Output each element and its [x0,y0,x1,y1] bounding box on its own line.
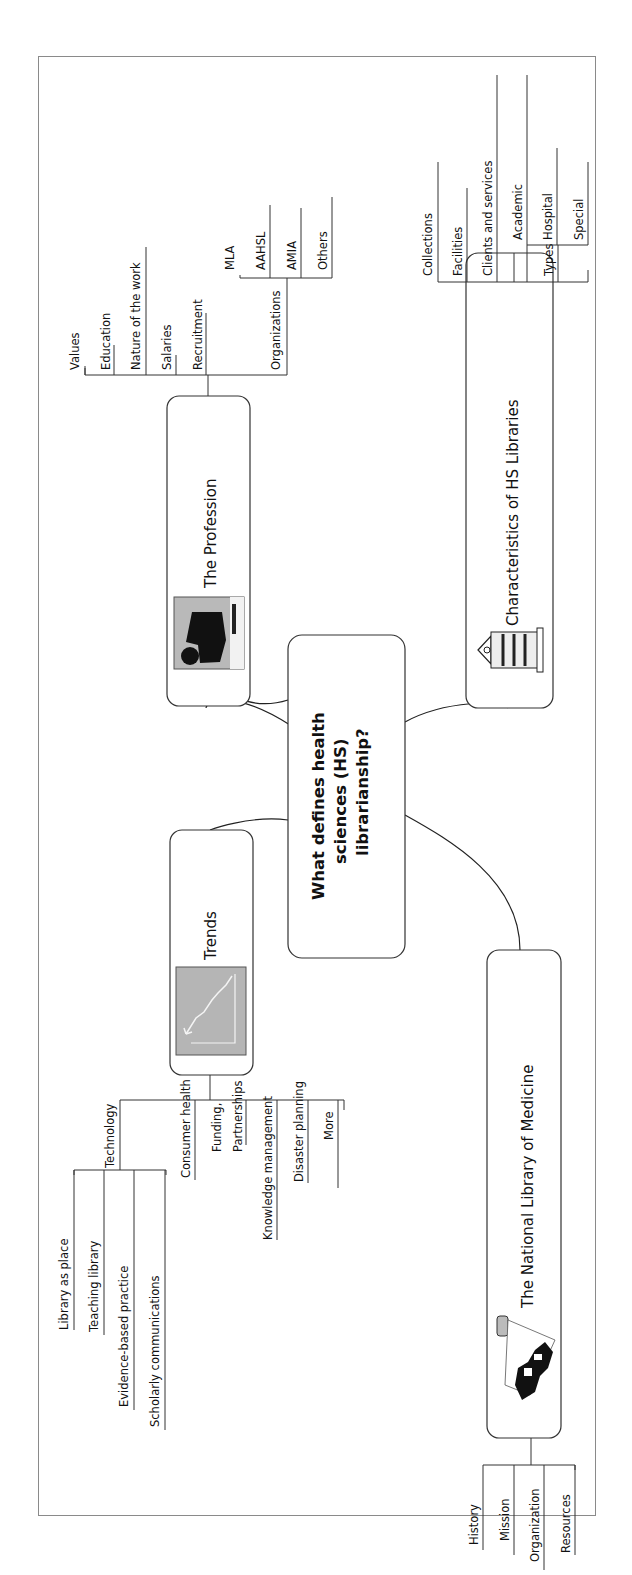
subtopic-disaster-planning[interactable]: Disaster planning [292,1081,306,1182]
tech-evidence-based-practice[interactable]: Evidence-based practice [117,1266,131,1407]
org-mla[interactable]: MLA [223,245,237,270]
org-others[interactable]: Others [316,231,330,270]
subtopic-education[interactable]: Education [99,313,113,370]
central-topic[interactable]: What defines health sciences (HS) librar… [288,635,405,958]
tech-teaching-library[interactable]: Teaching library [87,1241,101,1333]
org-aahsl[interactable]: AAHSL [254,231,268,270]
trend-chart-icon [176,967,246,1055]
subtopic-recruitment[interactable]: Recruitment [191,299,205,370]
subtopic-knowledge-management[interactable]: Knowledge management [261,1096,275,1240]
trends-label: Trends [202,911,220,961]
subtopic-history[interactable]: History [467,1504,481,1545]
subtopic-types[interactable]: Types [542,244,556,277]
topic-characteristics[interactable]: Characteristics of HS Libraries [466,253,553,708]
subtopic-resources[interactable]: Resources [559,1494,573,1553]
topic-nlm[interactable]: The National Library of Medicine [487,950,561,1438]
subtopic-mission[interactable]: Mission [498,1498,512,1541]
subtopic-organization[interactable]: Organization [528,1488,542,1562]
central-line-1: What defines health [309,712,328,900]
profession-label: The Profession [202,479,220,589]
subtopic-partnerships[interactable]: Partnerships [231,1080,245,1152]
type-special[interactable]: Special [572,199,586,240]
subtopic-facilities[interactable]: Facilities [451,227,465,276]
topic-profession[interactable]: The Profession [167,396,250,706]
nlm-label: The National Library of Medicine [519,1065,537,1309]
person-at-computer-icon [174,597,244,669]
subtopic-values[interactable]: Values [68,332,82,370]
tech-library-as-place[interactable]: Library as place [57,1238,71,1330]
mind-map: What defines health sciences (HS) librar… [0,0,632,1575]
characteristics-label: Characteristics of HS Libraries [504,399,522,626]
type-hospital[interactable]: Hospital [541,193,555,240]
subtopic-salaries[interactable]: Salaries [160,324,174,370]
subtopic-clients-and-services[interactable]: Clients and services [481,161,495,276]
org-amia[interactable]: AMIA [285,241,299,270]
topic-trends[interactable]: Trends [170,830,253,1075]
subtopic-nature-of-the-work[interactable]: Nature of the work [129,262,143,370]
tech-scholarly-communications[interactable]: Scholarly communications [148,1275,162,1427]
subtopic-collections[interactable]: Collections [421,213,435,276]
subtopic-more[interactable]: More [322,1111,336,1140]
subtopic-technology[interactable]: Technology [103,1103,117,1169]
subtopic-funding[interactable]: Funding, [210,1103,224,1152]
central-line-3: librarianship? [353,728,372,856]
type-academic[interactable]: Academic [511,184,525,240]
subtopic-consumer-health[interactable]: Consumer health [179,1079,193,1178]
central-line-2: sciences (HS) [331,738,350,864]
subtopic-organizations[interactable]: Organizations [269,290,283,370]
